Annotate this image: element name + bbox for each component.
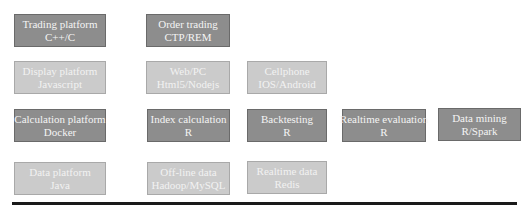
bottom-divider bbox=[12, 202, 517, 205]
box-tech: Redis bbox=[274, 178, 299, 191]
box-tech: C++/C bbox=[45, 31, 75, 44]
box-title: Realtime data bbox=[257, 165, 318, 178]
cellphone-box: Cellphone IOS/Android bbox=[247, 61, 327, 94]
box-title: Data mining bbox=[452, 112, 507, 125]
box-tech: CTP/REM bbox=[164, 31, 211, 44]
box-tech: Hadoop/MySQL bbox=[152, 179, 226, 192]
box-title: Backtesting bbox=[261, 113, 313, 126]
box-title: Realtime evaluation bbox=[340, 113, 428, 126]
offline-data-box: Off-line data Hadoop/MySQL bbox=[147, 162, 230, 195]
data-mining-box: Data mining R/Spark bbox=[438, 108, 521, 141]
box-title: Calculation platform bbox=[14, 113, 105, 126]
box-title: Data platform bbox=[29, 166, 90, 179]
box-tech: R/Spark bbox=[461, 125, 497, 138]
box-tech: IOS/Android bbox=[258, 78, 315, 91]
order-trading-box: Order trading CTP/REM bbox=[146, 14, 230, 47]
display-platform-box: Display platform Javascript bbox=[14, 61, 106, 94]
box-title: Trading platform bbox=[22, 18, 97, 31]
box-tech: Html5/Nodejs bbox=[157, 78, 219, 91]
realtime-evaluation-box: Realtime evaluation R bbox=[342, 109, 426, 142]
web-pc-box: Web/PC Html5/Nodejs bbox=[146, 61, 230, 94]
trading-platform-box: Trading platform C++/C bbox=[14, 14, 106, 47]
box-tech: R bbox=[380, 126, 387, 139]
box-tech: Java bbox=[50, 179, 70, 192]
box-tech: R bbox=[283, 126, 290, 139]
index-calculation-box: Index calculation R bbox=[147, 109, 230, 142]
box-tech: R bbox=[185, 126, 192, 139]
realtime-data-box: Realtime data Redis bbox=[247, 161, 327, 194]
data-platform-box: Data platform Java bbox=[14, 162, 106, 195]
box-tech: Docker bbox=[44, 126, 76, 139]
box-title: Index calculation bbox=[150, 113, 226, 126]
calculation-platform-box: Calculation platform Docker bbox=[14, 109, 106, 142]
box-tech: Javascript bbox=[38, 78, 82, 91]
box-title: Order trading bbox=[158, 18, 218, 31]
box-title: Web/PC bbox=[170, 65, 206, 78]
backtesting-box: Backtesting R bbox=[247, 109, 327, 142]
box-title: Off-line data bbox=[160, 166, 216, 179]
box-title: Display platform bbox=[23, 65, 98, 78]
box-title: Cellphone bbox=[264, 65, 309, 78]
